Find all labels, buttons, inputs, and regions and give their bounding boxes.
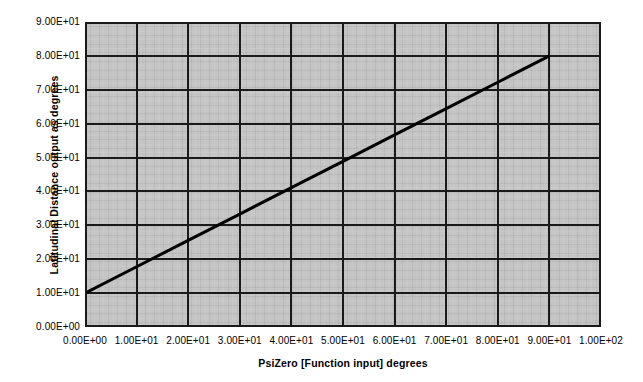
x-axis-tick-labels: 0.00E+001.00E+012.00E+013.00E+014.00E+01…	[0, 336, 643, 350]
data-series-layer	[85, 22, 601, 327]
y-axis-title-holder: Latitudinal Distance output as degrees	[22, 22, 23, 327]
y-tick-label: 4.00E+01	[0, 186, 80, 196]
plot-area	[85, 22, 601, 327]
series-line-latitudinal-distance	[85, 56, 549, 293]
y-tick-label: 7.00E+01	[0, 85, 80, 95]
x-tick-label: 1.00E+02	[556, 336, 643, 346]
y-tick-label: 0.00E+00	[0, 322, 80, 332]
y-tick-label: 9.00E+01	[0, 17, 80, 27]
y-tick-label: 3.00E+01	[0, 220, 80, 230]
y-tick-label: 2.00E+01	[0, 254, 80, 264]
y-axis-title: Latitudinal Distance output as degrees	[48, 60, 60, 290]
y-tick-label: 6.00E+01	[0, 119, 80, 129]
y-tick-label: 8.00E+01	[0, 51, 80, 61]
y-axis-tick-labels: 0.00E+001.00E+012.00E+013.00E+014.00E+01…	[0, 0, 80, 382]
x-axis-title: PsiZero [Function input] degrees	[85, 357, 601, 369]
chart-figure: 0.00E+001.00E+012.00E+013.00E+014.00E+01…	[0, 0, 643, 382]
y-tick-label: 5.00E+01	[0, 153, 80, 163]
y-tick-label: 1.00E+01	[0, 288, 80, 298]
